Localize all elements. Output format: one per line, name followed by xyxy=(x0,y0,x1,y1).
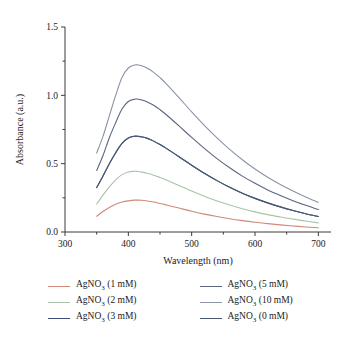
y-axis-title: Absorbance (a.u.) xyxy=(14,94,26,165)
spectra-plot: 0.00.51.01.5300400500600700 Wavelength (… xyxy=(0,0,351,272)
curve-agno3-0-mm xyxy=(97,136,319,216)
x-tick-label: 300 xyxy=(58,239,73,249)
x-tick-label: 600 xyxy=(248,239,263,249)
legend-swatch xyxy=(48,318,70,319)
plot-area: 0.00.51.01.5300400500600700 Wavelength (… xyxy=(0,0,351,272)
y-tick-label: 0.0 xyxy=(46,227,58,237)
legend-swatch xyxy=(48,302,70,303)
legend-item-agno3-3-mm[interactable]: AgNO3 (3 mM) xyxy=(48,310,200,326)
curve-agno3-3-mm xyxy=(97,136,319,216)
legend-swatch xyxy=(200,318,222,319)
curve-agno3-1-mm xyxy=(97,200,319,228)
legend-swatch xyxy=(48,286,70,287)
legend-item-agno3-0-mm[interactable]: AgNO3 (0 mM) xyxy=(200,310,351,326)
curve-group xyxy=(97,65,319,228)
y-tick-label: 1.0 xyxy=(46,91,58,101)
legend: AgNO3 (1 mM)AgNO3 (5 mM)AgNO3 (2 mM)AgNO… xyxy=(0,278,351,338)
curve-agno3-10-mm xyxy=(97,65,319,202)
legend-swatch xyxy=(200,302,222,303)
axes: 0.00.51.01.5300400500600700 xyxy=(46,22,331,249)
x-tick-label: 400 xyxy=(121,239,136,249)
x-tick-label: 500 xyxy=(185,239,200,249)
absorbance-spectra-figure: 0.00.51.01.5300400500600700 Wavelength (… xyxy=(0,0,351,341)
legend-label: AgNO3 (3 mM) xyxy=(76,308,137,328)
y-tick-label: 0.5 xyxy=(46,159,58,169)
curve-agno3-5-mm xyxy=(97,99,319,210)
legend-label: AgNO3 (0 mM) xyxy=(228,308,289,328)
y-tick-label: 1.5 xyxy=(46,22,58,32)
x-axis-title: Wavelength (nm) xyxy=(163,255,232,267)
x-tick-label: 700 xyxy=(311,239,326,249)
legend-swatch xyxy=(200,286,222,287)
